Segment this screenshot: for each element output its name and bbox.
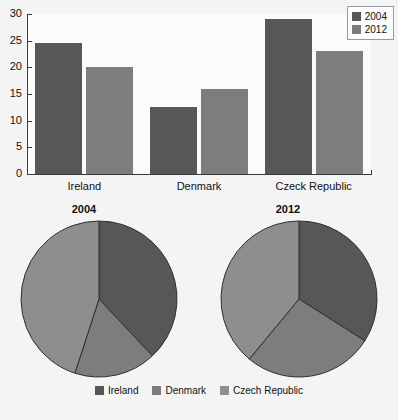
x-tick-label-ireland: Ireland (27, 180, 142, 192)
x-axis-line (27, 174, 372, 175)
pie-legend-label-czech-republic: Czech Republic (233, 386, 303, 396)
bar-czeck-republic-2012 (316, 51, 363, 174)
pie-legend-label-ireland: Ireland (108, 386, 139, 396)
legend-item-2012: 2012 (352, 23, 387, 36)
pie-charts-legend: Ireland Denmark Czech Republic (0, 384, 398, 397)
pie-legend-item-czech-republic: Czech Republic (220, 384, 303, 397)
pie-chart-2012 (219, 219, 379, 383)
pie-legend-item-denmark: Denmark (152, 384, 206, 397)
x-tick-label-denmark: Denmark (142, 180, 257, 192)
x-tick-label-czeck-republic: Czeck Republic (256, 180, 371, 192)
y-tick-label: 25 (0, 35, 22, 46)
bar-denmark-2012 (201, 89, 248, 174)
bar-ireland-2012 (86, 67, 133, 174)
legend-swatch-2012 (352, 25, 361, 34)
x-axis-cap-tick (371, 170, 372, 175)
pie-legend-swatch-ireland (95, 386, 104, 395)
legend-label-2004: 2004 (365, 12, 387, 22)
bar-czeck-republic-2004 (265, 19, 312, 174)
pie-legend-label-denmark: Denmark (165, 386, 206, 396)
bar-chart: 051015202530 IrelandDenmarkCzeck Republi… (0, 0, 398, 198)
legend-label-2012: 2012 (365, 25, 387, 35)
y-axis-cap-tick (27, 14, 32, 15)
bar-denmark-2004 (150, 107, 197, 174)
pie-legend-swatch-denmark (152, 386, 161, 395)
pie-2004-svg (19, 219, 179, 379)
bar-ireland-2004 (35, 43, 82, 174)
pie-chart-2004 (19, 219, 179, 383)
pie-charts: 2004 2012 Ireland Denmark Czech Republic (0, 198, 398, 420)
pie-title-2012: 2012 (248, 203, 328, 215)
pie-legend-swatch-czech-republic (220, 386, 229, 395)
pie-title-2004: 2004 (44, 203, 124, 215)
y-tick-label: 30 (0, 8, 22, 19)
y-tick-label: 5 (0, 141, 22, 152)
legend-swatch-2004 (352, 12, 361, 21)
figure-two-panel-chart: 051015202530 IrelandDenmarkCzeck Republi… (0, 0, 398, 420)
legend-item-2004: 2004 (352, 10, 387, 23)
y-tick-label: 20 (0, 61, 22, 72)
pie-legend-item-ireland: Ireland (95, 384, 139, 397)
bar-chart-legend: 2004 2012 (347, 6, 394, 40)
y-tick-label: 10 (0, 115, 22, 126)
y-tick-label: 15 (0, 88, 22, 99)
y-axis-line (27, 14, 28, 174)
pie-2012-svg (219, 219, 379, 379)
y-tick-label: 0 (0, 168, 22, 179)
